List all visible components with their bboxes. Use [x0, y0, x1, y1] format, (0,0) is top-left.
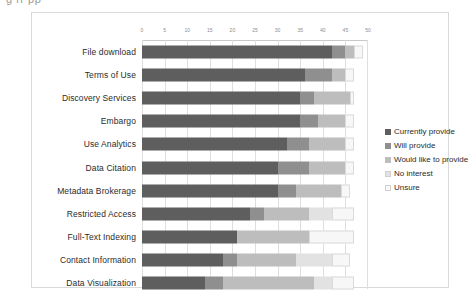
bar-segment[interactable] [142, 184, 278, 197]
bar-segment[interactable] [296, 254, 332, 267]
bar-segment[interactable] [350, 91, 355, 104]
bar-segment[interactable] [309, 138, 345, 151]
bar-segment[interactable] [287, 138, 310, 151]
bar-segment[interactable] [142, 207, 250, 220]
legend-swatch-icon [385, 143, 391, 149]
caption-text: g rr pp [6, 0, 41, 5]
stacked-bar[interactable] [142, 231, 354, 244]
bar-segment[interactable] [332, 45, 346, 58]
bar-row: Use Analytics [142, 133, 368, 156]
legend-label: Will provide [394, 141, 435, 150]
legend-swatch-icon [385, 129, 391, 135]
bar-segment[interactable] [345, 115, 354, 128]
bar-segment[interactable] [278, 184, 296, 197]
x-tick-label: 15 [207, 27, 213, 33]
x-tick-label: 40 [320, 27, 326, 33]
legend-swatch-icon [385, 157, 391, 163]
bar-segment[interactable] [309, 231, 354, 244]
bar-segment[interactable] [142, 138, 287, 151]
category-label: File download [82, 47, 136, 57]
bar-segment[interactable] [305, 68, 332, 81]
bar-segment[interactable] [314, 277, 332, 290]
category-label: Data Visualization [66, 278, 136, 288]
x-tick-label: 10 [184, 27, 190, 33]
bar-segment[interactable] [309, 161, 345, 174]
bar-segment[interactable] [142, 231, 237, 244]
legend-item[interactable]: Currently provide [385, 125, 473, 138]
legend-label: Unsure [394, 183, 420, 192]
stacked-bar[interactable] [142, 184, 350, 197]
bar-segment[interactable] [237, 231, 309, 244]
bar-segment[interactable] [237, 254, 296, 267]
bar-segment[interactable] [332, 207, 355, 220]
bar-segment[interactable] [223, 254, 237, 267]
stacked-bar[interactable] [142, 207, 354, 220]
category-label: Data Citation [86, 163, 136, 173]
bar-segment[interactable] [142, 254, 223, 267]
bar-segment[interactable] [332, 68, 346, 81]
bar-segment[interactable] [354, 45, 363, 58]
stacked-bar[interactable] [142, 138, 354, 151]
bar-segment[interactable] [345, 161, 354, 174]
legend-item[interactable]: Unsure [385, 181, 473, 194]
category-label: Terms of Use [85, 70, 136, 80]
bar-segment[interactable] [142, 115, 300, 128]
stacked-bar[interactable] [142, 115, 354, 128]
stacked-bar[interactable] [142, 254, 350, 267]
bar-segment[interactable] [278, 161, 310, 174]
bar-row: Contact Information [142, 249, 368, 272]
bar-segment[interactable] [142, 277, 205, 290]
bar-segment[interactable] [142, 161, 278, 174]
bar-segment[interactable] [345, 45, 354, 58]
bar-row: Metadata Brokerage [142, 179, 368, 202]
legend-item[interactable]: No interest [385, 167, 473, 180]
bar-segment[interactable] [345, 138, 354, 151]
category-label: Use Analytics [84, 139, 136, 149]
bar-segment[interactable] [341, 184, 350, 197]
bar-row: File download [142, 40, 368, 63]
x-tick-label: 25 [252, 27, 258, 33]
stacked-bar[interactable] [142, 68, 354, 81]
legend-swatch-icon [385, 185, 391, 191]
x-tick-label: 35 [297, 27, 303, 33]
legend-swatch-icon [385, 171, 391, 177]
x-tick-label: 20 [230, 27, 236, 33]
x-tick-label: 50 [365, 27, 371, 33]
bar-row: Terms of Use [142, 63, 368, 86]
bar-row: Full-Text Indexing [142, 226, 368, 249]
bar-rows: File downloadTerms of UseDiscovery Servi… [142, 40, 368, 295]
bar-segment[interactable] [345, 68, 354, 81]
bar-segment[interactable] [296, 184, 341, 197]
bar-segment[interactable] [332, 277, 355, 290]
bar-segment[interactable] [309, 207, 332, 220]
bar-row: Restricted Access [142, 202, 368, 225]
bar-segment[interactable] [205, 277, 223, 290]
x-tick-label: 0 [141, 27, 144, 33]
category-label: Restricted Access [67, 209, 136, 219]
x-tick-label: 30 [275, 27, 281, 33]
bar-segment[interactable] [250, 207, 264, 220]
bar-segment[interactable] [300, 115, 318, 128]
stacked-bar[interactable] [142, 277, 354, 290]
bar-segment[interactable] [264, 207, 309, 220]
bar-segment[interactable] [300, 91, 314, 104]
stacked-bar[interactable] [142, 161, 354, 174]
bar-segment[interactable] [314, 91, 350, 104]
bar-segment[interactable] [142, 68, 305, 81]
bar-segment[interactable] [223, 277, 313, 290]
bar-row: Data Citation [142, 156, 368, 179]
bar-segment[interactable] [318, 115, 345, 128]
x-tick-label: 45 [343, 27, 349, 33]
legend-item[interactable]: Will provide [385, 139, 473, 152]
bar-segment[interactable] [332, 254, 350, 267]
category-label: Full-Text Indexing [68, 232, 136, 242]
bar-segment[interactable] [142, 45, 332, 58]
bar-segment[interactable] [142, 91, 300, 104]
bar-row: Embargo [142, 110, 368, 133]
stacked-bar[interactable] [142, 45, 363, 58]
legend-label: Currently provide [394, 127, 455, 136]
legend-item[interactable]: Would like to provide [385, 153, 473, 166]
stacked-bar[interactable] [142, 91, 354, 104]
bar-row: Data Visualization [142, 272, 368, 295]
